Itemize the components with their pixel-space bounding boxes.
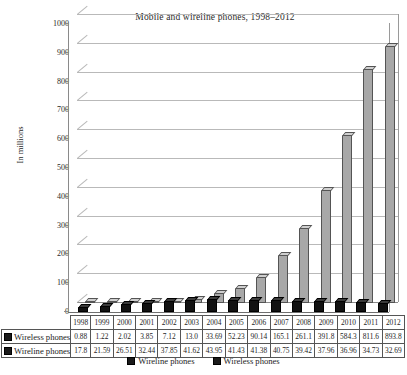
bar-top-face [299, 225, 312, 229]
bar-wireline-2004 [207, 299, 217, 312]
bar-group [227, 15, 248, 312]
bar-top-face [385, 43, 398, 47]
table-cell: 33.69 [203, 330, 225, 344]
bar-wireline-2008 [292, 301, 302, 312]
bar-group [163, 15, 184, 312]
bar-group [99, 15, 120, 312]
plot-area: 01002003004005006007008009001000 [68, 14, 398, 312]
table-year-header: 1998 [71, 316, 91, 330]
data-table: 1998199920002001200220032004200520062007… [1, 315, 405, 358]
chart-legend: Wireline phonesWireless phones [0, 356, 407, 366]
bar-top-face [321, 187, 334, 191]
bar-top-face [107, 298, 120, 302]
bar-group [377, 15, 398, 312]
table-cell: 261.1 [292, 330, 314, 344]
bar-group [355, 15, 376, 312]
bar-wireless-2008 [299, 228, 309, 303]
y-axis-label: In millions [15, 105, 25, 185]
table-year-header: 2011 [360, 316, 382, 330]
bar-group [77, 15, 98, 312]
table-cell: 7.12 [158, 330, 180, 344]
table-cell: 0.88 [71, 330, 91, 344]
plot-right-edge [398, 14, 399, 302]
table-year-header: 2010 [337, 316, 359, 330]
table-year-header: 2003 [180, 316, 202, 330]
bar-wireless-2011 [363, 69, 373, 303]
table-year-header: 2006 [248, 316, 270, 330]
table-year-header: 2004 [203, 316, 225, 330]
bar-wireline-2007 [271, 300, 281, 312]
table-cell: 391.8 [315, 330, 337, 344]
series-color-swatch-icon [4, 347, 12, 355]
table-year-header: 1999 [91, 316, 113, 330]
table-year-header: 2009 [315, 316, 337, 330]
table-year-header: 2007 [270, 316, 292, 330]
legend-item: Wireline phones [127, 356, 194, 366]
bar-top-face [235, 285, 248, 289]
bar-wireline-2011 [356, 302, 366, 312]
bar-wireline-2010 [335, 301, 345, 312]
bar-group [184, 15, 205, 312]
bar-group [313, 15, 334, 312]
bar-wireless-2012 [385, 46, 395, 303]
table-cell: 90.14 [248, 330, 270, 344]
plot-floor-line [68, 312, 389, 313]
bar-top-face [78, 304, 91, 308]
bar-wireless-2009 [321, 190, 331, 303]
table-year-header: 2008 [292, 316, 314, 330]
legend-color-swatch-icon [213, 357, 221, 365]
table-year-header: 2002 [158, 316, 180, 330]
table-year-header: 2000 [113, 316, 135, 330]
bar-top-face [100, 303, 113, 307]
chart-container: Mobile and wireline phones, 1998–2012 In… [0, 0, 407, 375]
bar-group [248, 15, 269, 312]
bar-wireline-2002 [164, 301, 174, 312]
table-cell: 52.23 [225, 330, 247, 344]
bar-wireline-2006 [249, 300, 259, 312]
table-cell: 13.0 [180, 330, 202, 344]
table-cell: 584.3 [337, 330, 359, 344]
bar-top-face [256, 274, 269, 278]
bar-wireless-1998 [85, 301, 95, 303]
bar-top-face [363, 66, 376, 70]
bar-wireline-1999 [100, 306, 110, 312]
bar-top-face [121, 301, 134, 305]
table-row: Wireless phones0.881.222.023.857.1213.03… [2, 330, 405, 344]
bar-wireline-2003 [185, 300, 195, 312]
bar-wireline-1998 [78, 307, 88, 312]
legend-item: Wireless phones [213, 356, 280, 366]
table-cell: 893.8 [382, 330, 404, 344]
bar-group [291, 15, 312, 312]
table-corner-cell [2, 316, 71, 330]
table-cell: 1.22 [91, 330, 113, 344]
bar-top-face [85, 298, 98, 302]
bar-top-face [342, 132, 355, 136]
legend-label: Wireline phones [138, 356, 194, 366]
bar-group [141, 15, 162, 312]
table-header-row: 1998199920002001200220032004200520062007… [2, 316, 405, 330]
bar-group [120, 15, 141, 312]
series-color-swatch-icon [4, 333, 12, 341]
table-cell: 165.1 [270, 330, 292, 344]
bar-group [206, 15, 227, 312]
legend-label: Wireless phones [224, 356, 280, 366]
table-year-header: 2005 [225, 316, 247, 330]
legend-color-swatch-icon [127, 357, 135, 365]
table-cell: 811.6 [360, 330, 382, 344]
bar-wireline-2001 [142, 303, 152, 312]
bar-wireless-2007 [278, 255, 288, 303]
table-cell: 2.02 [113, 330, 135, 344]
table-cell: 3.85 [136, 330, 158, 344]
bar-group [334, 15, 355, 312]
table-row-header: Wireless phones [2, 330, 71, 344]
bar-wireline-2012 [378, 303, 388, 312]
bar-group [270, 15, 291, 312]
bars-layer [68, 14, 398, 312]
table-year-header: 2001 [136, 316, 158, 330]
bar-wireless-2010 [342, 135, 352, 303]
bar-wireline-2005 [228, 300, 238, 312]
bar-top-face [214, 290, 227, 294]
table-year-header: 2012 [382, 316, 404, 330]
bar-top-face [142, 300, 155, 304]
bar-top-face [278, 252, 291, 256]
